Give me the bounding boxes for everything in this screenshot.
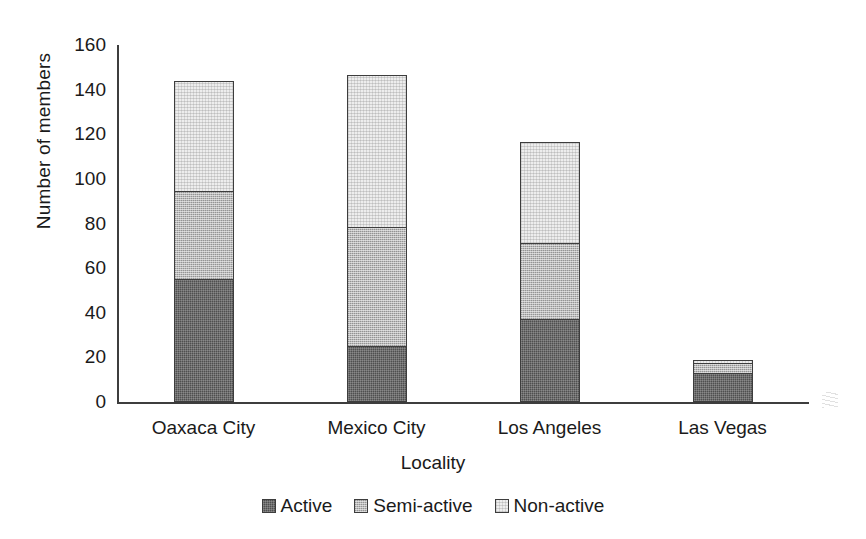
bar-segment-semi-active [174, 191, 234, 280]
y-axis-line [117, 45, 119, 404]
bar-segment-semi-active [520, 243, 580, 321]
x-tick-label: Los Angeles [450, 417, 650, 439]
legend-item: Non-active [495, 495, 605, 517]
bar-segment-active [174, 279, 234, 402]
legend-item: Active [262, 495, 333, 517]
y-tick-label: 40 [85, 302, 106, 324]
legend-item: Semi-active [354, 495, 472, 517]
y-tick-label: 20 [85, 346, 106, 368]
bar-segment-active [347, 346, 407, 402]
x-axis-title: Locality [0, 452, 866, 474]
bar-segment-non-active [174, 81, 234, 193]
stacked-bar [347, 75, 407, 402]
legend-label: Non-active [514, 495, 605, 517]
y-tick-label: 80 [85, 213, 106, 235]
bar-segment-active [693, 373, 753, 402]
scan-artifact [822, 392, 838, 408]
plot-area: 020406080100120140160 [117, 45, 809, 404]
legend-label: Active [281, 495, 333, 517]
x-tick-label: Mexico City [277, 417, 477, 439]
legend-swatch-icon [354, 499, 368, 513]
bar-segment-active [520, 319, 580, 402]
x-tick-label: Oaxaca City [104, 417, 304, 439]
bar-segment-non-active [520, 142, 580, 245]
y-tick-label: 0 [95, 391, 106, 413]
stacked-bar [174, 81, 234, 402]
stacked-bar [693, 360, 753, 402]
y-tick-label: 140 [74, 79, 106, 101]
legend-label: Semi-active [373, 495, 472, 517]
bar-chart-figure: Number of members 020406080100120140160 … [0, 0, 866, 539]
bar-segment-semi-active [347, 227, 407, 347]
x-axis-line [117, 402, 809, 404]
y-axis-title: Number of members [33, 11, 55, 271]
legend-swatch-icon [495, 499, 509, 513]
bar-segment-non-active [347, 75, 407, 229]
y-tick-label: 100 [74, 168, 106, 190]
y-tick-label: 160 [74, 34, 106, 56]
legend-swatch-icon [262, 499, 276, 513]
stacked-bar [520, 142, 580, 402]
x-tick-label: Las Vegas [623, 417, 823, 439]
y-tick-label: 120 [74, 123, 106, 145]
y-tick-label: 60 [85, 257, 106, 279]
chart-legend: ActiveSemi-activeNon-active [0, 495, 866, 517]
